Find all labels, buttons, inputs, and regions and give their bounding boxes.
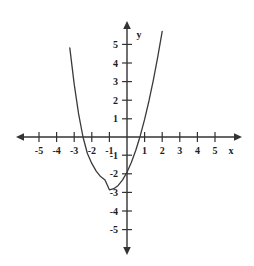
- x-tick-label-5: 5: [213, 145, 218, 156]
- x-tick-label-neg2: -2: [88, 145, 96, 156]
- y-axis-arrow-down: [123, 247, 131, 255]
- coordinate-plane-plot: -5 -4 -3 -2 -1 1 2 3 4 5 5 4 3 2 1 -1 -2…: [0, 0, 254, 266]
- x-tick-label-2: 2: [160, 145, 165, 156]
- y-axis: [123, 21, 131, 255]
- x-axis-arrow-left: [16, 133, 24, 141]
- graph-figure: -5 -4 -3 -2 -1 1 2 3 4 5 5 4 3 2 1 -1 -2…: [0, 0, 254, 266]
- parabola-curve: [70, 31, 162, 189]
- y-tick-label-4: 4: [113, 58, 118, 69]
- x-tick-label-neg4: -4: [52, 145, 60, 156]
- y-tick-label-2: 2: [113, 95, 118, 106]
- y-tick-label-neg1: -1: [110, 150, 118, 161]
- y-tick-label-neg4: -4: [110, 206, 118, 217]
- x-tick-label-4: 4: [195, 145, 200, 156]
- x-tick-label-3: 3: [177, 145, 182, 156]
- y-tick-label-3: 3: [113, 76, 118, 87]
- y-axis-arrow-up: [123, 21, 131, 29]
- y-axis-label: y: [137, 29, 142, 40]
- y-tick-label-1: 1: [113, 113, 118, 124]
- x-tick-label-neg5: -5: [35, 145, 43, 156]
- x-axis: [16, 133, 242, 141]
- x-axis-arrow-right: [234, 133, 242, 141]
- y-tick-label-neg2: -2: [110, 168, 118, 179]
- y-tick-label-5: 5: [113, 39, 118, 50]
- x-tick-label-neg3: -3: [70, 145, 78, 156]
- y-tick-label-neg5: -5: [110, 224, 118, 235]
- x-tick-label-1: 1: [142, 145, 147, 156]
- x-axis-label: x: [229, 145, 234, 156]
